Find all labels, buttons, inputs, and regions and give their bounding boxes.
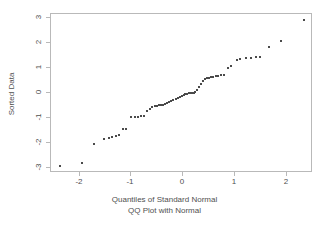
y-axis-tick-label: 3 [34,13,44,21]
y-axis-tick-label: 0 [34,88,44,96]
y-axis-tick-label: -3 [34,163,44,171]
x-axis-tick [130,172,131,176]
x-axis-tick [182,172,183,176]
x-axis-tick-label: -1 [120,177,140,186]
x-axis-title: Quantiles of Standard Normal [0,194,329,205]
y-axis-tick [46,67,50,68]
chart-subtitle: QQ Plot with Normal [0,205,329,216]
x-axis-tick-label: 1 [224,177,244,186]
y-axis-tick-label: -1 [34,113,44,121]
y-axis-tick-label: 1 [34,63,44,71]
y-axis-tick [46,117,50,118]
x-axis-tick [286,172,287,176]
y-axis-title: Sorted Data [6,56,18,132]
x-axis-tick-label: -2 [69,177,89,186]
y-axis-tick [46,42,50,43]
y-axis-tick [46,167,50,168]
qq-plot-figure: 3210-1-2-3-2-1012 Sorted Data Quantiles … [0,0,329,229]
y-axis-tick [46,92,50,93]
y-axis-tick [46,17,50,18]
x-axis-tick [234,172,235,176]
y-axis-tick [46,142,50,143]
y-axis-tick-label: 2 [34,38,44,46]
y-axis-title-text: Sorted Data [6,73,18,116]
x-axis-tick [79,172,80,176]
x-axis-tick-label: 0 [172,177,192,186]
y-axis-tick-label: -2 [34,138,44,146]
plot-frame [50,13,312,172]
x-axis-tick-label: 2 [276,177,296,186]
